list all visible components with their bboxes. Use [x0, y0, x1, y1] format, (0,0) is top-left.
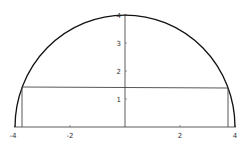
y-tick-label: 2 [117, 68, 121, 76]
y-tick-label: 1 [117, 96, 121, 104]
y-tick-label: 4 [117, 12, 122, 20]
x-tick-label: 2 [178, 132, 182, 140]
y-tick-label: 3 [117, 40, 121, 48]
x-tick-label: 4 [233, 132, 238, 140]
x-tick-label: -2 [67, 132, 74, 140]
x-tick-label: -4 [10, 132, 18, 140]
chart-plot: -4 -2 2 4 1 2 3 4 [0, 0, 249, 147]
